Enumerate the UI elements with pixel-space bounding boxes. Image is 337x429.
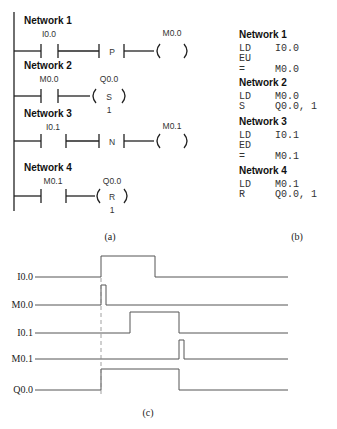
network-title: Network 4 — [24, 162, 72, 173]
signal-label-q0-0: Q0.0 — [13, 384, 33, 395]
ladder-network-3: Network 3 I0.1 N M0.1 — [14, 108, 187, 148]
network-title: Network 2 — [24, 60, 72, 71]
signal-label-m0-1: M0.1 — [12, 353, 33, 364]
waveform-m0-0 — [35, 285, 288, 305]
coil-address: Q0.0 — [100, 74, 119, 84]
signal-label-i0-1: I0.1 — [17, 327, 33, 338]
contact-address: I0.0 — [42, 29, 56, 39]
coil-type: R — [109, 192, 115, 202]
stl-operand: I0.1 — [275, 130, 299, 141]
stl-network-title: Network 4 — [239, 165, 287, 176]
stl-operand: M0.0 — [275, 64, 299, 75]
timing-diagram: I0.0 M0.0 I0.1 M0.1 Q0.0 (c) — [12, 256, 288, 419]
contact-address: M0.1 — [44, 176, 63, 186]
network-title: Network 3 — [24, 108, 72, 119]
stl-network-title: Network 3 — [239, 116, 287, 127]
stl-op: EU — [239, 53, 251, 64]
coil-count: 1 — [107, 105, 112, 115]
stl-operand: I0.0 — [275, 43, 299, 54]
waveform-q0-0 — [35, 369, 288, 390]
stl-op: = — [239, 64, 245, 75]
coil-left-paren — [157, 44, 160, 58]
coil-right-paren — [184, 44, 187, 58]
coil-left-paren — [93, 89, 96, 103]
caption-b: (b) — [291, 231, 303, 243]
stl-network-title: Network 2 — [239, 77, 287, 88]
coil-right-paren — [122, 89, 125, 103]
ladder-network-4: Network 4 M0.1 Q0.0 R 1 — [14, 162, 127, 215]
caption-a: (a) — [104, 231, 115, 243]
diagram-canvas: Network 1 I0.0 P M0.0 Network 2 M0.0 Q0.… — [0, 0, 337, 429]
waveform-i0-1 — [35, 312, 288, 333]
signal-label-m0-0: M0.0 — [12, 299, 33, 310]
network-title: Network 1 — [24, 15, 72, 26]
waveform-i0-0 — [35, 256, 288, 277]
contact-address: M0.0 — [40, 74, 59, 84]
coil-count: 1 — [110, 205, 115, 215]
coil-address: Q0.0 — [103, 176, 122, 186]
ladder-network-2: Network 2 M0.0 Q0.0 S 1 — [14, 60, 125, 115]
stl-op: S — [239, 101, 245, 112]
edge-detector-label: N — [109, 137, 115, 147]
ladder-network-1: Network 1 I0.0 P M0.0 — [14, 15, 187, 58]
edge-detector-label: P — [109, 47, 115, 57]
stl-operand: Q0.0, 1 — [275, 101, 317, 112]
stl-operand: Q0.0, 1 — [275, 189, 317, 200]
coil-type: S — [106, 92, 112, 102]
stl-op: ED — [239, 140, 251, 151]
waveform-m0-1 — [35, 340, 288, 359]
stl-op: = — [239, 151, 245, 162]
stl-network-title: Network 1 — [239, 29, 287, 40]
ladder-diagram: Network 1 I0.0 P M0.0 Network 2 M0.0 Q0.… — [14, 12, 187, 243]
stl-operand: M0.1 — [275, 151, 299, 162]
coil-address: M0.0 — [163, 28, 182, 38]
stl-listing: Network 1 LD I0.0 EU = M0.0 Network 2 LD… — [239, 29, 317, 243]
coil-address: M0.1 — [163, 121, 182, 131]
stl-op: R — [239, 189, 245, 200]
contact-address: I0.1 — [46, 122, 60, 132]
caption-c: (c) — [142, 407, 153, 419]
signal-label-i0-0: I0.0 — [17, 271, 33, 282]
